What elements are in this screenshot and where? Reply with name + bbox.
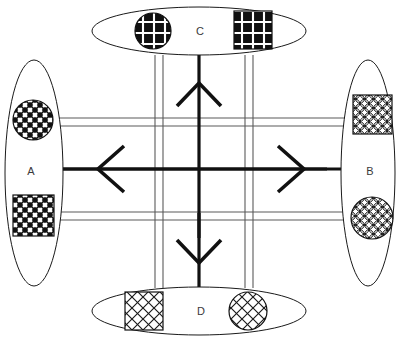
zone-b-marker-square [353, 95, 392, 134]
zone-b-marker-circle [351, 197, 393, 239]
zone-a[interactable]: A [5, 60, 63, 286]
zone-c-label: C [196, 25, 204, 37]
zone-a-label: A [27, 165, 35, 177]
zone-c[interactable]: C [92, 7, 306, 55]
zone-c-marker-circle [135, 13, 171, 49]
zone-d[interactable]: D [92, 287, 306, 335]
zone-d-marker-square [125, 292, 163, 330]
zone-a-marker-square [13, 195, 54, 236]
diagram-canvas: A B C [0, 0, 396, 343]
zone-d-marker-circle [229, 292, 267, 330]
zone-b-label: B [366, 165, 373, 177]
zone-a-marker-circle [13, 100, 53, 140]
zone-d-label: D [197, 305, 205, 317]
zone-b[interactable]: B [341, 60, 395, 286]
zone-c-marker-square [234, 11, 272, 49]
crossroads-flow-diagram: A B C [0, 0, 396, 343]
